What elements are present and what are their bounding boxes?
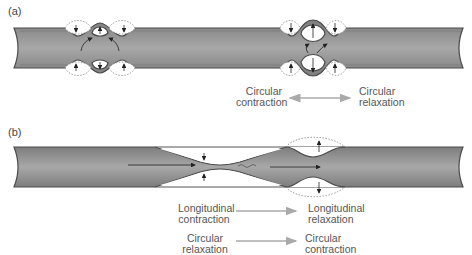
label-circular-contraction-b: Circular contraction	[305, 233, 356, 255]
label-circular-relaxation-b: Circular relaxation	[180, 233, 230, 255]
label-circular-relaxation-a: Circular relaxation	[359, 86, 405, 108]
panel-label-b: (b)	[8, 126, 21, 138]
label-longitudinal-contraction: Longitudinal contraction	[178, 203, 230, 225]
label-circular-contraction-a: Circular contraction	[236, 86, 282, 108]
panel-label-a: (a)	[8, 5, 21, 17]
tube-b	[14, 137, 463, 197]
label-longitudinal-relaxation: Longitudinal relaxation	[308, 203, 365, 225]
